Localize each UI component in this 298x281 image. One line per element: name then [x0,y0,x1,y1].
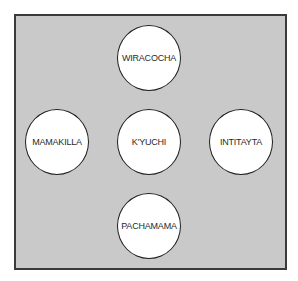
node-label: PACHAMAMA [121,221,177,231]
node-wiracocha: WIRACOCHA [117,25,181,91]
node-label: K'YUCHI [132,137,166,147]
node-kyuchi: K'YUCHI [117,109,181,175]
node-label: WIRACOCHA [122,53,176,63]
node-label: INTITAYTA [220,137,262,147]
node-label: MAMAKILLA [32,137,82,147]
node-pachamama: PACHAMAMA [117,193,181,259]
node-intitayta: INTITAYTA [209,109,273,175]
node-mamakilla: MAMAKILLA [25,109,89,175]
